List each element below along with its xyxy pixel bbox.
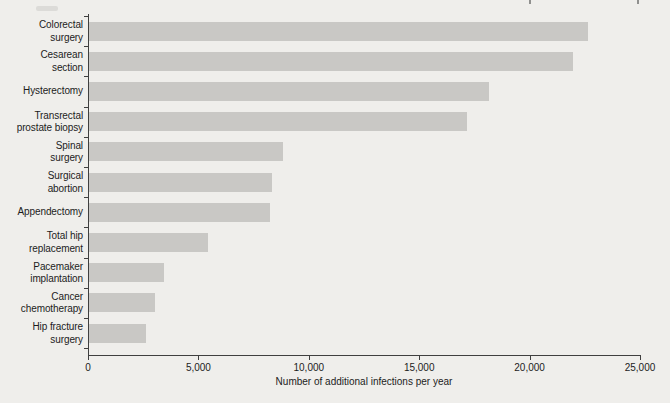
cropped-text-artifact xyxy=(637,0,639,4)
y-axis-tick xyxy=(84,258,88,259)
category-label-pacemaker-implantation: Pacemaker implantation xyxy=(2,260,83,285)
bar-spinal-surgery xyxy=(89,142,283,161)
bar-pacemaker-implantation xyxy=(89,263,164,282)
y-axis-tick xyxy=(84,107,88,108)
category-label-surgical-abortion: Surgical abortion xyxy=(2,170,83,195)
x-tick-label-25-000: 25,000 xyxy=(625,362,656,373)
x-tick-label-10-000: 10,000 xyxy=(294,362,325,373)
y-axis-tick xyxy=(84,288,88,289)
category-label-cesarean-section: Cesarean section xyxy=(2,49,83,74)
x-axis-tick xyxy=(309,355,310,360)
x-tick-label-20-000: 20,000 xyxy=(514,362,545,373)
bar-appendectomy xyxy=(89,203,270,222)
x-axis-tick xyxy=(530,355,531,360)
bar-colorectal-surgery xyxy=(89,22,588,41)
category-label-appendectomy: Appendectomy xyxy=(2,206,83,219)
x-axis-tick xyxy=(419,355,420,360)
category-label-transrectal-prostate-biopsy: Transrectal prostate biopsy xyxy=(2,109,83,134)
y-axis-tick xyxy=(84,167,88,168)
y-axis-tick xyxy=(84,137,88,138)
x-axis-title: Number of additional infections per year xyxy=(276,376,453,387)
bar-hip-fracture-surgery xyxy=(89,324,146,343)
y-axis-tick xyxy=(84,348,88,349)
infections-bar-chart-figure: Colorectal surgeryCesarean sectionHyster… xyxy=(0,0,670,403)
x-axis-tick xyxy=(640,355,641,360)
category-label-total-hip-replacement: Total hip replacement xyxy=(2,230,83,255)
x-tick-label-0: 0 xyxy=(85,362,91,373)
bar-transrectal-prostate-biopsy xyxy=(89,112,467,131)
cropped-text-artifact xyxy=(529,0,531,4)
category-label-spinal-surgery: Spinal surgery xyxy=(2,139,83,164)
category-label-hysterectomy: Hysterectomy xyxy=(2,85,83,98)
category-label-cancer-chemotherapy: Cancer chemotherapy xyxy=(2,290,83,315)
bar-total-hip-replacement xyxy=(89,233,208,252)
x-axis-tick xyxy=(88,355,89,360)
y-axis-tick xyxy=(84,227,88,228)
bar-surgical-abortion xyxy=(89,173,272,192)
y-axis-tick xyxy=(84,76,88,77)
y-axis-tick xyxy=(84,197,88,198)
category-label-hip-fracture-surgery: Hip fracture surgery xyxy=(2,321,83,346)
x-axis-line xyxy=(88,355,641,356)
x-tick-label-5-000: 5,000 xyxy=(186,362,211,373)
y-axis-tick xyxy=(84,46,88,47)
y-axis-tick xyxy=(84,318,88,319)
bar-cesarean-section xyxy=(89,52,573,71)
bar-hysterectomy xyxy=(89,82,489,101)
bar-cancer-chemotherapy xyxy=(89,293,155,312)
category-label-colorectal-surgery: Colorectal surgery xyxy=(2,19,83,44)
y-axis-tick xyxy=(84,16,88,17)
cropped-text-artifact xyxy=(36,6,58,11)
x-tick-label-15-000: 15,000 xyxy=(404,362,435,373)
x-axis-tick xyxy=(198,355,199,360)
